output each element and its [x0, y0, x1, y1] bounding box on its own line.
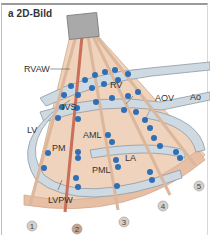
- marker-3: 3: [122, 218, 127, 227]
- label-lv: LV: [27, 125, 37, 135]
- label-aov: AOV: [155, 93, 174, 103]
- marker-2: 2: [75, 225, 80, 234]
- marker-4: 4: [161, 202, 166, 211]
- label-rv: RV: [110, 80, 122, 90]
- label-ivs: IVS: [62, 102, 77, 112]
- marker-5: 5: [197, 182, 202, 191]
- marker-1: 1: [30, 222, 35, 231]
- label-pml: PML: [92, 165, 111, 175]
- echo-2d-diagram: RVAW RV IVS AOV Ao LV AML PM LA PML LVPW…: [0, 0, 210, 237]
- label-aml: AML: [83, 130, 102, 140]
- label-la: LA: [125, 153, 136, 163]
- label-lvpw: LVPW: [48, 195, 73, 205]
- label-pm: PM: [52, 143, 66, 153]
- transducer-probe: [67, 12, 99, 39]
- label-ao: Ao: [190, 92, 201, 102]
- label-rvaw: RVAW: [24, 64, 50, 74]
